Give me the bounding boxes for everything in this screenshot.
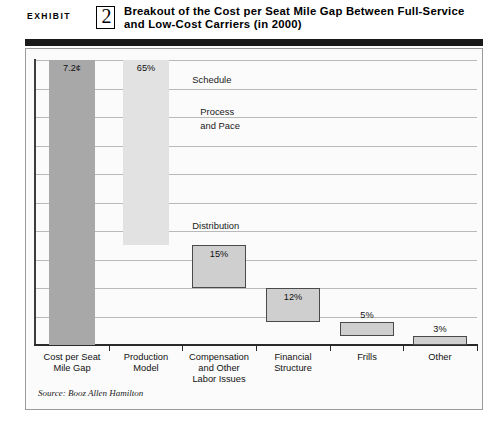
y-axis: [34, 59, 36, 346]
chart-annotation: Process: [200, 106, 234, 118]
bar-value-label: 65%: [123, 63, 169, 73]
x-axis-tick: [256, 345, 257, 351]
exhibit-number: 2: [97, 5, 116, 28]
bar-value-label: 3%: [414, 324, 466, 334]
chart-annotation: and Pace: [200, 120, 240, 132]
exhibit-header: EXHIBIT 2 Breakout of the Cost per Seat …: [0, 0, 503, 42]
gridline: [35, 288, 477, 289]
gridline: [35, 203, 477, 204]
bar-5: 5%: [340, 322, 394, 336]
x-axis-tick: [182, 345, 183, 351]
gridline: [35, 260, 477, 261]
gridline: [35, 89, 477, 90]
bar-4: 12%: [266, 288, 320, 322]
exhibit-label: EXHIBIT: [27, 11, 71, 21]
page-title: Breakout of the Cost per Seat Mile Gap B…: [124, 5, 484, 30]
bar-2: 65%: [123, 60, 169, 245]
gridline: [35, 60, 477, 61]
chart-annotation: Distribution: [192, 220, 239, 232]
x-axis-tick: [109, 345, 110, 351]
gridline: [35, 317, 477, 318]
exhibit-number-box: 2: [96, 6, 115, 29]
x-axis-tick: [330, 345, 331, 351]
gridline: [35, 174, 477, 175]
category-label: Other: [397, 352, 483, 363]
source-note: Source: Booz Allen Hamilton: [38, 388, 143, 398]
bar-1: 7.2¢: [49, 60, 95, 345]
bar-value-label: 7.2¢: [49, 63, 95, 73]
bar-6: 3%: [413, 336, 467, 345]
x-axis-tick: [477, 345, 478, 351]
bar-value-label: 5%: [341, 310, 393, 320]
category-label-line: Other: [397, 352, 483, 363]
chart-annotation: Schedule: [192, 74, 231, 86]
plot-area: [35, 60, 477, 345]
bar-value-label: 12%: [267, 292, 319, 302]
header-rule: [25, 39, 483, 46]
gridline: [35, 231, 477, 232]
bar-3: 15%: [192, 245, 246, 288]
gridline: [35, 117, 477, 118]
bar-value-label: 15%: [193, 249, 245, 259]
category-label-line: Labor Issues: [176, 374, 262, 385]
category-label-line: Structure: [250, 363, 336, 374]
gridlines-group: [35, 60, 477, 345]
x-axis-tick: [403, 345, 404, 351]
gridline: [35, 146, 477, 147]
